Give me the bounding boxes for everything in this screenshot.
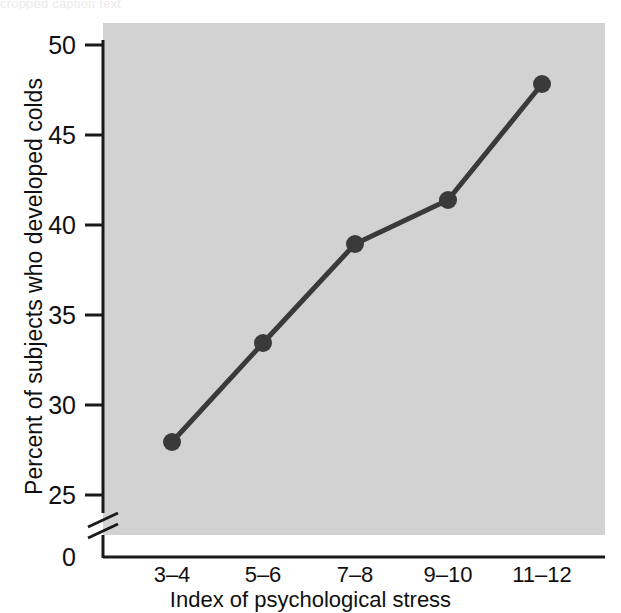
x-axis-title: Index of psychological stress: [0, 588, 621, 612]
x-tick-label-4: 9–10: [424, 563, 473, 587]
data-point-marker: [163, 433, 181, 451]
data-point-marker: [533, 75, 551, 93]
axis-break-symbol: [88, 513, 118, 538]
x-tick-label-1: 3–4: [154, 563, 191, 587]
y-tick-label-origin: 0: [30, 545, 76, 570]
data-point-marker: [439, 191, 457, 209]
x-tick-label-2: 5–6: [245, 563, 282, 587]
y-axis-title: Percent of subjects who developed colds: [22, 27, 47, 547]
x-tick-label-3: 7–8: [337, 563, 374, 587]
data-line-series: [172, 84, 542, 442]
data-point-marker: [346, 235, 364, 253]
data-point-marker: [254, 334, 272, 352]
chart-canvas: [0, 0, 621, 613]
x-tick-label-5: 11–12: [512, 563, 572, 587]
figure: cropped caption text 50 45 40 35: [0, 0, 621, 613]
